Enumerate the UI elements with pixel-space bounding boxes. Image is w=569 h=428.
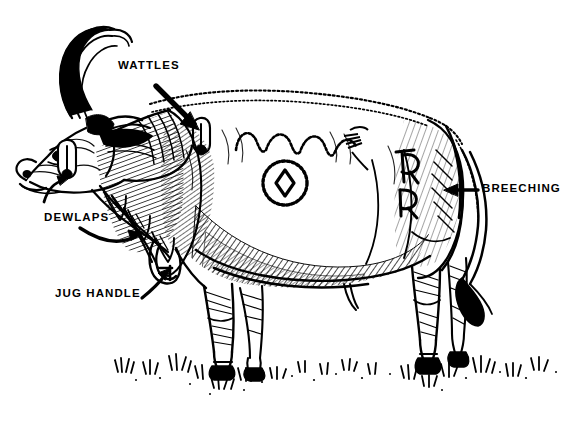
- label-jug-handle: JUG HANDLE: [55, 288, 141, 300]
- label-breeching: BREECHING: [482, 183, 561, 195]
- label-wattles: WATTLES: [118, 60, 180, 72]
- ground-speckles: [135, 371, 557, 395]
- label-dewlaps: DEWLAPS: [44, 212, 109, 224]
- diagram-canvas: WATTLES DEWLAPS JUG HANDLE BREECHING: [0, 0, 569, 428]
